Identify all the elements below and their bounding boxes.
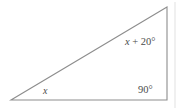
angle-label-top-right-addend: 20° xyxy=(141,36,156,47)
angle-label-top-right: x + 20° xyxy=(125,37,156,48)
triangle-shape xyxy=(0,0,180,110)
geometry-figure: x 90° x + 20° xyxy=(0,0,180,110)
angle-label-bottom-right: 90° xyxy=(138,85,153,96)
angle-label-top-right-operator: + xyxy=(130,36,141,47)
scan-edge-artifact xyxy=(174,2,176,108)
angle-label-bottom-left-text: x xyxy=(43,85,47,96)
angle-label-bottom-left: x xyxy=(43,86,47,96)
angle-label-bottom-right-text: 90° xyxy=(138,84,153,95)
